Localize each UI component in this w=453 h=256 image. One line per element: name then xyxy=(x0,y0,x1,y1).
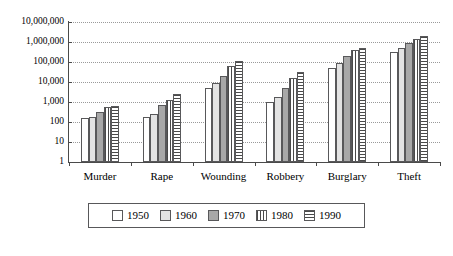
y-axis-tick-mark xyxy=(68,42,72,43)
y-axis-tick-label: 10 xyxy=(55,137,65,147)
bar-wounding-1990 xyxy=(235,61,243,162)
bar-murder-1960 xyxy=(89,117,97,162)
x-axis-label-robbery: Robbery xyxy=(255,170,317,182)
bar-robbery-1970 xyxy=(282,88,290,162)
bar-wounding-1970 xyxy=(220,76,228,162)
bar-group xyxy=(378,22,440,162)
legend-item-1960: 1960 xyxy=(160,210,197,221)
bar-robbery-1950 xyxy=(266,102,274,162)
bar-robbery-1980 xyxy=(289,78,297,162)
bar-robbery-1960 xyxy=(274,97,282,162)
x-axis-tick-mark xyxy=(193,162,194,166)
x-axis-tick-mark xyxy=(378,162,379,166)
bar-group xyxy=(131,22,193,162)
bar-murder-1950 xyxy=(81,118,89,162)
y-axis-tick-mark xyxy=(68,22,72,23)
legend-swatch-1950 xyxy=(112,210,123,221)
legend-swatch-1990 xyxy=(304,210,315,221)
bar-burglary-1960 xyxy=(336,63,344,162)
y-axis-tick-mark xyxy=(68,142,72,143)
bar-chart: 10,000,0001,000,000100,00010,0001,000100… xyxy=(0,0,453,256)
bar-burglary-1950 xyxy=(328,68,336,162)
bar-theft-1980 xyxy=(413,39,421,162)
y-axis-tick-mark xyxy=(68,102,72,103)
legend-swatch-1960 xyxy=(160,210,171,221)
x-axis-label-murder: Murder xyxy=(69,170,131,182)
bar-rape-1950 xyxy=(143,117,151,162)
y-axis-tick-label: 10,000,000 xyxy=(21,17,64,27)
x-axis-tick-mark xyxy=(316,162,317,166)
y-axis-tick-label: 1,000,000 xyxy=(26,37,64,47)
bar-murder-1990 xyxy=(111,106,119,162)
bar-theft-1950 xyxy=(390,52,398,162)
x-axis-label-burglary: Burglary xyxy=(316,170,378,182)
plot-area xyxy=(69,22,440,162)
bar-theft-1990 xyxy=(420,36,428,162)
bar-group xyxy=(69,22,131,162)
legend-item-1970: 1970 xyxy=(208,210,245,221)
y-axis-tick-mark xyxy=(68,82,72,83)
legend-item-1980: 1980 xyxy=(256,210,293,221)
bar-theft-1960 xyxy=(398,48,406,162)
x-axis-tick-mark xyxy=(131,162,132,166)
bar-group xyxy=(255,22,317,162)
bar-group xyxy=(316,22,378,162)
legend-label-1970: 1970 xyxy=(223,210,245,221)
x-axis-label-wounding: Wounding xyxy=(193,170,255,182)
bar-group xyxy=(193,22,255,162)
bar-burglary-1980 xyxy=(351,50,359,162)
y-axis-tick-label: 100,000 xyxy=(33,57,64,67)
y-axis-tick-label: 1 xyxy=(59,157,64,167)
legend-label-1950: 1950 xyxy=(127,210,149,221)
x-axis-tick-mark xyxy=(440,162,441,166)
x-axis-tick-mark xyxy=(69,162,70,166)
bar-rape-1970 xyxy=(158,105,166,162)
bar-rape-1990 xyxy=(173,94,181,162)
bar-burglary-1990 xyxy=(359,48,367,162)
y-axis-tick-label: 100 xyxy=(50,117,64,127)
y-axis-tick-mark xyxy=(68,62,72,63)
y-axis-tick-labels: 10,000,0001,000,000100,00010,0001,000100… xyxy=(0,0,64,256)
legend: 19501960197019801990 xyxy=(88,203,365,228)
bar-wounding-1950 xyxy=(205,88,213,162)
x-axis-label-rape: Rape xyxy=(131,170,193,182)
x-axis-label-theft: Theft xyxy=(378,170,440,182)
bar-wounding-1980 xyxy=(227,66,235,162)
bar-rape-1960 xyxy=(150,114,158,162)
legend-item-1950: 1950 xyxy=(112,210,149,221)
bar-murder-1970 xyxy=(96,112,104,162)
legend-label-1960: 1960 xyxy=(175,210,197,221)
y-axis-tick-mark xyxy=(68,122,72,123)
y-axis-tick-label: 1,000 xyxy=(43,97,64,107)
bar-wounding-1960 xyxy=(212,83,220,162)
legend-item-1990: 1990 xyxy=(304,210,341,221)
bar-robbery-1990 xyxy=(297,72,305,162)
legend-label-1990: 1990 xyxy=(319,210,341,221)
bar-murder-1980 xyxy=(104,107,112,162)
legend-label-1980: 1980 xyxy=(271,210,293,221)
bar-burglary-1970 xyxy=(343,56,351,162)
legend-swatch-1980 xyxy=(256,210,267,221)
y-axis-tick-label: 10,000 xyxy=(38,77,64,87)
legend-swatch-1970 xyxy=(208,210,219,221)
bar-theft-1970 xyxy=(405,43,413,162)
x-axis-tick-mark xyxy=(255,162,256,166)
bar-rape-1980 xyxy=(166,100,174,162)
